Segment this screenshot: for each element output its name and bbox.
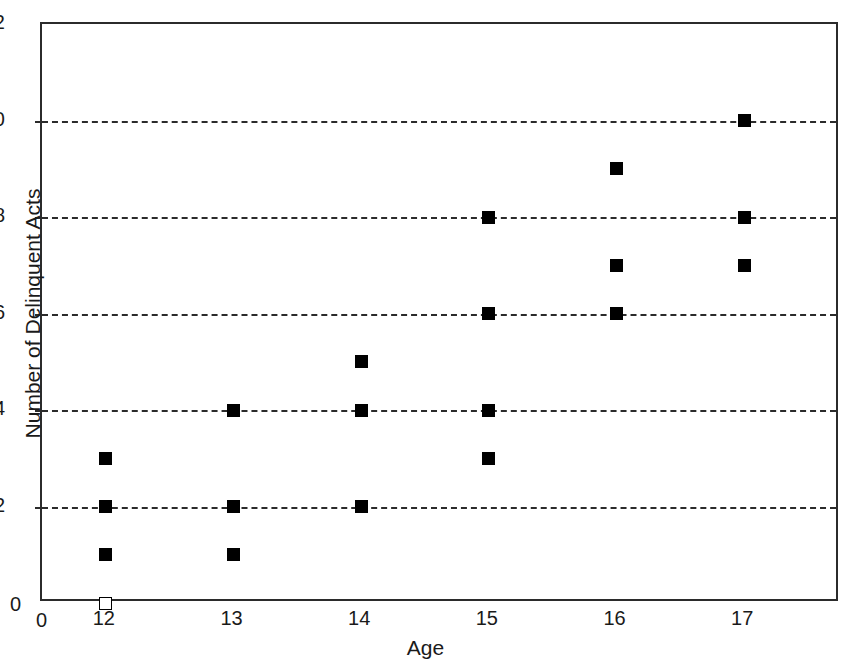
data-point xyxy=(482,307,495,320)
data-point xyxy=(738,211,751,224)
data-point xyxy=(482,404,495,417)
x-tick-label-16: 16 xyxy=(603,608,625,628)
y-tick-label-2: 2 xyxy=(0,495,5,515)
y-axis-title: Number of Delinquent Acts xyxy=(22,54,43,574)
gridline-y-2 xyxy=(42,507,836,509)
x-axis-title: Age xyxy=(0,637,851,658)
data-point xyxy=(738,259,751,272)
plot-area xyxy=(40,22,838,601)
x-tick-label-14: 14 xyxy=(348,608,370,628)
data-point xyxy=(482,211,495,224)
x-tick-label-15: 15 xyxy=(476,608,498,628)
x-tick-label-17: 17 xyxy=(731,608,753,628)
y-axis-origin-label: 0 xyxy=(10,594,21,614)
data-point xyxy=(355,500,368,513)
gridline-y-6 xyxy=(42,314,836,316)
x-tick-label-12: 12 xyxy=(93,608,115,628)
x-axis-origin-label: 0 xyxy=(36,610,47,630)
data-point xyxy=(738,114,751,127)
data-point xyxy=(482,452,495,465)
y-tick-label-4: 4 xyxy=(0,398,5,418)
data-point xyxy=(99,452,112,465)
data-point xyxy=(227,500,240,513)
data-point xyxy=(99,500,112,513)
scatter-plot-figure: 24681012 121314151617 0 0 Age Number of … xyxy=(0,0,851,670)
gridline-y-10 xyxy=(42,121,836,123)
data-point xyxy=(610,162,623,175)
y-tick-label-8: 8 xyxy=(0,205,5,225)
gridline-y-8 xyxy=(42,217,836,219)
data-point xyxy=(99,548,112,561)
data-point xyxy=(227,404,240,417)
data-point xyxy=(610,307,623,320)
gridline-y-4 xyxy=(42,410,836,412)
y-tick-label-6: 6 xyxy=(0,302,5,322)
data-point xyxy=(355,355,368,368)
x-tick-label-13: 13 xyxy=(220,608,242,628)
y-tick-label-12: 12 xyxy=(0,12,5,32)
data-point xyxy=(610,259,623,272)
data-point xyxy=(227,548,240,561)
y-tick-label-10: 10 xyxy=(0,109,5,129)
data-point xyxy=(355,404,368,417)
